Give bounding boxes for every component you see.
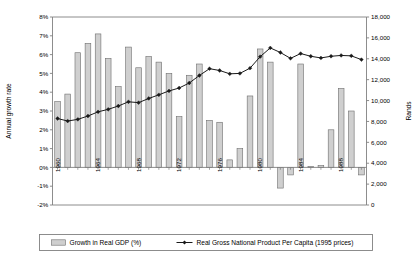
y-tick-label-5: 3%	[39, 107, 48, 114]
legend-label-gdp-growth: Growth in Real GDP (%)	[70, 239, 142, 247]
chart-container: 8%7%6%5%4%3%2%1%0%-1%-2% 18,00016,00014,…	[0, 0, 419, 264]
bar-1971	[166, 73, 172, 167]
bar-1981	[267, 62, 273, 167]
legend-label-gnp-per-capita: Real Gross National Product Per Capita (…	[197, 239, 354, 247]
y-tick-label-8: 0%	[39, 164, 48, 171]
x-axis-label-1964: 1964	[94, 158, 101, 172]
x-axis-label-1988: 1988	[337, 158, 344, 172]
bar-1967	[126, 47, 132, 167]
bar-1978	[237, 149, 243, 168]
y-tick-label-0: 8%	[39, 13, 48, 20]
bar-1964	[95, 34, 101, 167]
bar-1966	[116, 87, 122, 168]
x-axis-label-1968: 1968	[135, 158, 142, 172]
x-axis-label-1976: 1976	[216, 158, 223, 172]
y-tick-label-9: -1%	[37, 182, 49, 189]
bar-1960	[55, 102, 61, 168]
y-tick-label-4: 4%	[39, 88, 48, 95]
gdp-growth-gnp-per-capita-chart: 8%7%6%5%4%3%2%1%0%-1%-2% 18,00016,00014,…	[0, 0, 419, 264]
chart-legend: Growth in Real GDP (%)Real Gross Nationa…	[40, 235, 373, 251]
bar-1982	[278, 167, 284, 188]
bar-1979	[247, 96, 253, 167]
bar-1989	[348, 111, 354, 167]
y2-tick-label-9: 0	[371, 201, 375, 208]
y2-tick-label-6: 6,000	[371, 139, 387, 146]
bar-1980	[257, 49, 263, 167]
bar-1968	[136, 68, 142, 168]
y2-tick-label-5: 8,000	[371, 118, 387, 125]
y-tick-label-10: -2%	[37, 201, 49, 208]
bar-1973	[186, 75, 192, 167]
y2-tick-label-7: 4,000	[371, 159, 387, 166]
y-tick-label-3: 5%	[39, 70, 48, 77]
y-tick-label-1: 7%	[39, 32, 48, 39]
y2-tick-label-8: 2,000	[371, 180, 387, 187]
y2-tick-label-3: 12,000	[371, 76, 390, 83]
y-tick-label-7: 1%	[39, 145, 48, 152]
bar-1974	[197, 64, 203, 167]
x-axis-label-1972: 1972	[175, 158, 182, 172]
bar-1988	[338, 88, 344, 167]
y2-tick-label-4: 10,000	[371, 97, 390, 104]
bar-1965	[105, 58, 111, 167]
bar-1984	[298, 64, 304, 167]
bar-1969	[146, 56, 152, 167]
bar-1977	[227, 160, 233, 168]
y-axis-right-title: Rands	[405, 101, 412, 121]
y2-tick-label-1: 16,000	[371, 34, 390, 41]
y-tick-label-6: 2%	[39, 126, 48, 133]
legend-bar-swatch	[52, 240, 66, 245]
bar-1961	[65, 94, 71, 167]
y-tick-label-2: 6%	[39, 51, 48, 58]
y-axis-left-title: Annual growth rate	[5, 83, 13, 139]
bar-1987	[328, 130, 334, 168]
bar-1975	[207, 120, 213, 167]
bar-1963	[85, 43, 91, 167]
x-axis-label-1980: 1980	[256, 158, 263, 172]
bar-1962	[75, 53, 81, 168]
y2-tick-label-0: 18,000	[371, 13, 390, 20]
bar-1970	[156, 62, 162, 167]
x-axis-label-1960: 1960	[54, 158, 61, 172]
x-axis-label-1984: 1984	[297, 158, 304, 172]
y2-tick-label-2: 14,000	[371, 55, 390, 62]
